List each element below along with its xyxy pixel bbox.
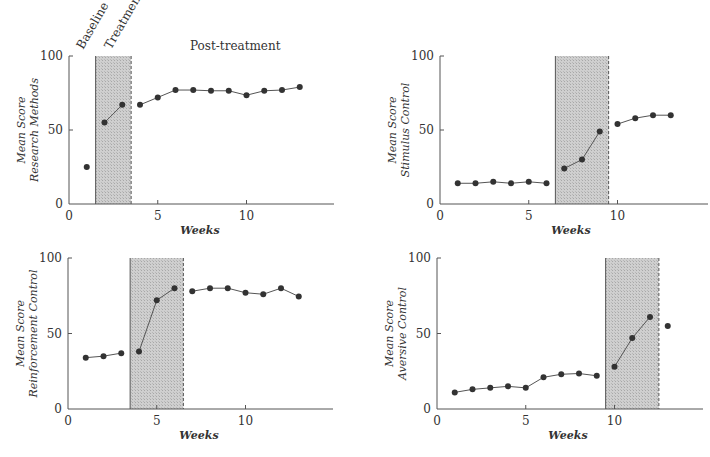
data-point bbox=[136, 349, 142, 355]
data-point bbox=[173, 87, 179, 93]
data-point bbox=[579, 157, 585, 163]
data-point bbox=[296, 294, 302, 300]
x-tick-label: 10 bbox=[238, 414, 253, 428]
y-axis-label-line2: Aversive Control bbox=[396, 287, 409, 381]
x-tick-label: 10 bbox=[610, 209, 625, 223]
data-point bbox=[576, 371, 582, 377]
data-point bbox=[226, 88, 232, 94]
data-point bbox=[632, 115, 638, 121]
data-point bbox=[523, 385, 529, 391]
data-point bbox=[260, 291, 266, 297]
y-tick-label: 0 bbox=[55, 197, 63, 211]
x-tick-label: 5 bbox=[153, 414, 161, 428]
x-tick-label: 0 bbox=[436, 209, 444, 223]
data-point bbox=[102, 120, 108, 126]
panel-reinforcement-control: 0501000510WeeksMean ScoreReinforcement C… bbox=[14, 251, 333, 442]
x-tick-label: 5 bbox=[522, 414, 530, 428]
data-point bbox=[541, 374, 547, 380]
data-point bbox=[668, 112, 674, 118]
y-tick-label: 100 bbox=[39, 251, 62, 265]
y-axis-label-line2: Reinforcement Control bbox=[27, 269, 40, 398]
y-tick-label: 0 bbox=[423, 402, 431, 416]
treatment-phase-shading bbox=[606, 258, 659, 409]
data-point bbox=[261, 88, 267, 94]
data-point bbox=[470, 386, 476, 392]
y-tick-label: 0 bbox=[426, 197, 434, 211]
treatment-phase-shading bbox=[130, 258, 183, 409]
x-axis-label: Weeks bbox=[180, 224, 219, 237]
data-point bbox=[665, 323, 671, 329]
data-point bbox=[647, 314, 653, 320]
data-point bbox=[243, 290, 249, 296]
data-point bbox=[558, 371, 564, 377]
data-point bbox=[544, 180, 550, 186]
x-tick-label: 5 bbox=[525, 209, 533, 223]
x-tick-label: 10 bbox=[239, 209, 254, 223]
x-axis-label: Weeks bbox=[179, 429, 218, 442]
data-point bbox=[154, 297, 160, 303]
data-point bbox=[84, 164, 90, 170]
data-point bbox=[278, 285, 284, 291]
y-tick-label: 100 bbox=[40, 49, 63, 63]
x-axis-label: Weeks bbox=[551, 224, 590, 237]
series-line bbox=[618, 115, 671, 124]
series-line bbox=[458, 182, 547, 183]
y-tick-label: 50 bbox=[419, 123, 434, 137]
data-point bbox=[490, 179, 496, 185]
panel-stimulus-control: 0501000510WeeksMean ScoreStimulus Contro… bbox=[386, 49, 708, 237]
data-point bbox=[455, 180, 461, 186]
y-tick-label: 0 bbox=[54, 402, 62, 416]
phase-label-post-treatment: Post-treatment bbox=[190, 39, 281, 53]
data-point bbox=[101, 353, 107, 359]
y-axis-label-line1: Mean Score bbox=[14, 300, 27, 368]
data-point bbox=[650, 112, 656, 118]
data-point bbox=[297, 84, 303, 90]
y-axis-label-line2: Stimulus Control bbox=[399, 82, 412, 177]
data-point bbox=[505, 383, 511, 389]
data-point bbox=[508, 180, 514, 186]
y-tick-label: 100 bbox=[411, 49, 434, 63]
axes bbox=[68, 258, 333, 409]
data-point bbox=[119, 102, 125, 108]
panel-research-methods: 0501000510WeeksMean ScoreResearch Method… bbox=[15, 49, 334, 237]
x-tick-label: 10 bbox=[607, 414, 622, 428]
y-axis-label-line2: Research Methods bbox=[28, 78, 41, 183]
axes bbox=[437, 258, 703, 409]
data-point bbox=[594, 373, 600, 379]
data-point bbox=[487, 385, 493, 391]
data-point bbox=[526, 179, 532, 185]
data-point bbox=[137, 102, 143, 108]
y-tick-label: 50 bbox=[47, 327, 62, 341]
data-point bbox=[244, 92, 250, 98]
data-point bbox=[189, 288, 195, 294]
x-tick-label: 0 bbox=[433, 414, 441, 428]
y-tick-label: 50 bbox=[416, 327, 431, 341]
data-point bbox=[279, 87, 285, 93]
data-point bbox=[615, 121, 621, 127]
y-axis-label-line1: Mean Score bbox=[386, 96, 399, 164]
y-axis-label-line1: Mean Score bbox=[15, 96, 28, 164]
data-point bbox=[452, 389, 458, 395]
data-point bbox=[597, 128, 603, 134]
series-line bbox=[140, 87, 300, 105]
x-tick-label: 0 bbox=[64, 414, 72, 428]
data-point bbox=[561, 165, 567, 171]
data-point bbox=[473, 180, 479, 186]
y-tick-label: 100 bbox=[408, 251, 431, 265]
data-point bbox=[208, 88, 214, 94]
data-point bbox=[207, 285, 213, 291]
data-point bbox=[118, 350, 124, 356]
data-point bbox=[225, 285, 231, 291]
y-axis-label-line1: Mean Score bbox=[383, 300, 396, 368]
x-tick-label: 5 bbox=[154, 209, 162, 223]
x-axis-label: Weeks bbox=[548, 429, 587, 442]
data-point bbox=[83, 355, 89, 361]
data-point bbox=[629, 335, 635, 341]
data-point bbox=[190, 87, 196, 93]
multiple-baseline-figure: Baseline Treatment Post-treatment 050100… bbox=[0, 0, 710, 457]
data-point bbox=[155, 94, 161, 100]
data-point bbox=[612, 364, 618, 370]
x-tick-label: 0 bbox=[65, 209, 73, 223]
data-point bbox=[172, 285, 178, 291]
panel-aversive-control: 0501000510WeeksMean ScoreAversive Contro… bbox=[383, 251, 703, 442]
